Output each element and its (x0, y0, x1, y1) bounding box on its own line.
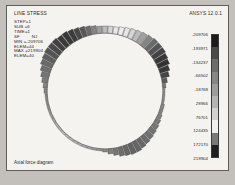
ring-segment (103, 149, 108, 152)
legend-label: -209706 (192, 33, 208, 37)
ring-segment (65, 134, 70, 138)
ring-segment (46, 104, 49, 109)
ring-segment (42, 77, 49, 83)
legend-band (212, 120, 218, 132)
ring-segment (48, 109, 51, 114)
legend-band (212, 72, 218, 84)
axial-force-ring-diagram (35, 16, 175, 166)
legend-band (212, 47, 218, 59)
ring-segment (61, 130, 66, 135)
ring-segment (113, 148, 119, 156)
legend-label: -193971 (192, 47, 208, 51)
ring-segment (103, 26, 108, 33)
legend-label: -66502 (194, 74, 208, 78)
ansys-screenshot: LINE STRESS ANSYS 12.0.1 STEP=1SUB =6TIM… (0, 0, 235, 185)
legend-band (212, 96, 218, 108)
ring-segment (45, 94, 47, 99)
ring-segment-group (40, 26, 169, 157)
ring-segment (87, 146, 92, 149)
ring-centerline (47, 33, 163, 149)
legend-label: 76701 (196, 116, 208, 120)
legend-band (212, 84, 218, 96)
color-legend: -209706-193971-134237-66502-187682896676… (164, 32, 222, 160)
legend-band (212, 108, 218, 120)
legend-label: 172170 (193, 143, 208, 147)
ring-segment (58, 127, 62, 132)
legend-color-bar (211, 34, 219, 158)
legend-band (212, 133, 218, 145)
ring-segment (78, 143, 83, 147)
legend-label: -18768 (194, 88, 208, 92)
ansys-version-label: ANSYS 12.0.1 (189, 12, 222, 17)
plot-caption: Axial force diagram (14, 160, 53, 165)
ring-segment (50, 113, 54, 118)
ring-diagram-svg (35, 16, 175, 166)
ring-segment (97, 149, 102, 151)
ring-segment (108, 26, 113, 33)
ansys-plot-window: LINE STRESS ANSYS 12.0.1 STEP=1SUB =6TIM… (6, 5, 229, 171)
ring-segment (108, 149, 113, 154)
legend-label: 28966 (196, 102, 208, 106)
legend-label: 124435 (193, 129, 208, 133)
ring-segment (44, 89, 47, 94)
ring-segment (159, 109, 163, 114)
legend-band (212, 35, 218, 47)
legend-label: -134237 (192, 61, 208, 65)
legend-label: 219904 (193, 157, 208, 161)
ring-segment (82, 145, 87, 148)
legend-label-list: -209706-193971-134237-66502-187682896676… (166, 32, 208, 160)
legend-band (212, 59, 218, 71)
ring-segment (97, 26, 102, 33)
ring-segment (43, 83, 47, 88)
legend-band (212, 145, 218, 157)
ring-segment (113, 27, 119, 35)
